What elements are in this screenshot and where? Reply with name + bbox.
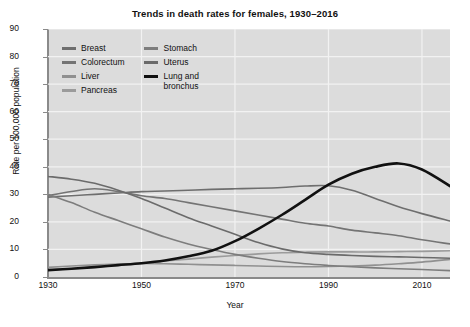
legend-swatch-icon	[62, 47, 76, 50]
legend-item[interactable]: Uterus	[144, 57, 198, 67]
legend-item[interactable]: Liver	[62, 71, 124, 81]
legend-swatch-icon	[62, 75, 76, 78]
x-tick-label: 1930	[39, 280, 58, 290]
legend-label: Stomach	[163, 43, 197, 53]
legend-column: StomachUterusLung and bronchus	[144, 43, 198, 95]
legend-label: Breast	[81, 43, 106, 53]
legend-swatch-icon	[144, 75, 158, 79]
y-tick-mark	[43, 277, 48, 278]
x-axis-line	[47, 277, 450, 279]
legend-swatch-icon	[144, 47, 158, 50]
x-tick-label: 2010	[412, 280, 431, 290]
legend-item[interactable]: Lung and bronchus	[144, 71, 198, 91]
y-tick-label: 0	[0, 271, 19, 281]
chart-root: Trends in death rates for females, 1930–…	[0, 0, 470, 327]
legend-label: Liver	[81, 71, 99, 81]
y-axis-label: Rate per 100,000 population	[11, 21, 21, 221]
legend: BreastColorectumLiverPancreasStomachUter…	[62, 43, 199, 95]
y-tick-label: 10	[0, 243, 19, 253]
legend-column: BreastColorectumLiverPancreas	[62, 43, 124, 95]
legend-item[interactable]: Stomach	[144, 43, 198, 53]
x-tick-label: 1970	[226, 280, 245, 290]
legend-label: Uterus	[163, 57, 188, 67]
legend-item[interactable]: Pancreas	[62, 85, 124, 95]
legend-swatch-icon	[62, 61, 76, 64]
chart-title: Trends in death rates for females, 1930–…	[0, 8, 470, 19]
legend-label: Pancreas	[81, 85, 117, 95]
legend-item[interactable]: Breast	[62, 43, 124, 53]
x-tick-label: 1990	[319, 280, 338, 290]
x-tick-label: 1950	[132, 280, 151, 290]
legend-item[interactable]: Colorectum	[62, 57, 124, 67]
legend-label: Lung and bronchus	[163, 71, 198, 91]
legend-label: Colorectum	[81, 57, 124, 67]
legend-swatch-icon	[62, 89, 76, 92]
x-axis-label: Year	[0, 300, 470, 310]
legend-swatch-icon	[144, 61, 158, 64]
